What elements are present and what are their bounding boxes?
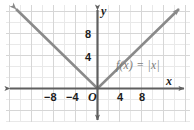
- x-axis-label: x: [166, 75, 172, 87]
- graph-canvas: [0, 0, 194, 130]
- absolute-value-graph-figure: −8 −4 4 8 4 8 O x y f(x) = |x|: [0, 0, 194, 130]
- function-equation-label: f(x) = |x|: [116, 60, 160, 72]
- y-axis-label: y: [101, 5, 106, 17]
- x-tick-label-4: 4: [117, 92, 123, 103]
- x-tick-label-neg8: −8: [44, 92, 57, 103]
- origin-label: O: [88, 91, 97, 103]
- y-tick-label-8: 8: [85, 29, 91, 40]
- x-tick-label-neg4: −4: [66, 92, 79, 103]
- x-tick-label-8: 8: [139, 92, 145, 103]
- y-tick-label-4: 4: [85, 52, 91, 63]
